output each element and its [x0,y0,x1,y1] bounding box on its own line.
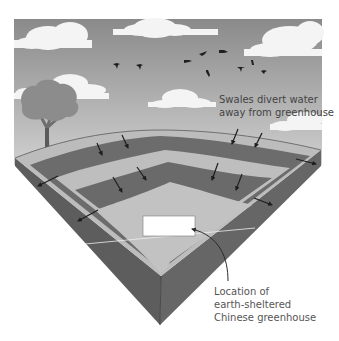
swales-annotation-line2: away from greenhouse [219,106,334,119]
greenhouse-site [143,216,195,236]
greenhouse-annotation-line2: earth-sheltered [214,298,316,311]
greenhouse-annotation: Location of earth-sheltered Chinese gree… [214,285,316,324]
greenhouse-annotation-line1: Location of [214,285,316,298]
greenhouse-annotation-line3: Chinese greenhouse [214,311,316,324]
swales-annotation: Swales divert water away from greenhouse [219,93,334,119]
swales-annotation-line1: Swales divert water [219,93,334,106]
